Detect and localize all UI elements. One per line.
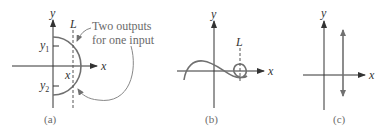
x-axis-label: x bbox=[267, 64, 274, 78]
y2-label: y2 bbox=[39, 78, 49, 94]
x-axis-label: x bbox=[368, 68, 375, 82]
x-axis-label: x bbox=[100, 59, 107, 73]
y1-label: y1 bbox=[39, 38, 49, 54]
annotation-line2: for one input bbox=[92, 33, 155, 47]
caption-c: (c) bbox=[333, 113, 346, 126]
y-axis-label: y bbox=[320, 6, 327, 20]
panel-c: y x (c) bbox=[303, 6, 375, 126]
annotation-line1: Two outputs bbox=[92, 19, 152, 33]
wave-loop-curve bbox=[184, 61, 247, 80]
line-L-label: L bbox=[69, 17, 77, 31]
figure: y x y1 y2 L x Two outputs for one input … bbox=[0, 0, 387, 136]
pointer-arrow-upper bbox=[77, 28, 91, 41]
caption-b: (b) bbox=[205, 113, 218, 126]
y-axis-label: y bbox=[49, 6, 56, 20]
y-axis-label: y bbox=[210, 7, 217, 21]
x-input-label: x bbox=[64, 68, 71, 82]
panel-b: y x L (b) bbox=[177, 7, 274, 126]
caption-a: (a) bbox=[44, 113, 57, 126]
pointer-arrow-lower bbox=[78, 46, 133, 100]
line-L-label: L bbox=[235, 35, 243, 49]
panel-a: y x y1 y2 L x Two outputs for one input … bbox=[12, 6, 155, 126]
